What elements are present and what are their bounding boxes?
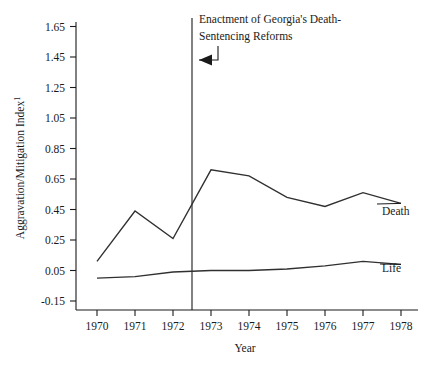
x-axis-ticks [97, 310, 401, 316]
y-axis-title-footnote: 1 [13, 97, 22, 101]
series-line-death [97, 170, 401, 262]
x-tick-label-1974: 1974 [238, 320, 261, 332]
y-axis-title-group: Aggravation/Mitigation Index1 [13, 97, 28, 239]
y-tick-label-025: 0.25 [45, 234, 65, 246]
aggravation-mitigation-index-line-chart: 1.65 1.45 1.25 1.05 0.85 0.65 0.45 0.25 … [0, 0, 430, 373]
y-tick-label-neg015: -0.15 [41, 295, 65, 307]
y-tick-label-085: 0.85 [45, 143, 65, 155]
y-axis-title: Aggravation/Mitigation Index [14, 101, 27, 240]
y-tick-label-065: 0.65 [45, 173, 65, 185]
annotation-line-2: Sentencing Reforms [199, 30, 293, 43]
y-tick-label-165: 1.65 [45, 21, 65, 33]
death-label-leader [377, 203, 401, 204]
x-axis-title: Year [234, 342, 255, 354]
series-line-life [97, 261, 401, 278]
x-tick-label-1978: 1978 [390, 320, 413, 332]
y-tick-label-105: 1.05 [45, 112, 65, 124]
x-tick-label-1976: 1976 [314, 320, 337, 332]
annotation-line-1: Enactment of Georgia's Death- [199, 13, 341, 26]
y-tick-label-005: 0.05 [45, 265, 65, 277]
x-tick-label-1977: 1977 [352, 320, 375, 332]
x-tick-label-1975: 1975 [276, 320, 299, 332]
y-axis-ticks [70, 27, 76, 302]
x-tick-label-1970: 1970 [86, 320, 109, 332]
x-tick-label-1971: 1971 [124, 320, 147, 332]
series-label-life: Life [382, 262, 401, 274]
series-label-death: Death [382, 205, 410, 217]
y-tick-label-125: 1.25 [45, 82, 65, 94]
chart-figure: 1.65 1.45 1.25 1.05 0.85 0.65 0.45 0.25 … [0, 0, 430, 373]
svg-text:Aggravation/Mitigation Index1: Aggravation/Mitigation Index1 [13, 97, 28, 239]
annotation-arrow [199, 46, 218, 66]
x-tick-label-1973: 1973 [200, 320, 223, 332]
x-tick-label-1972: 1972 [162, 320, 185, 332]
y-tick-label-145: 1.45 [45, 51, 65, 63]
y-tick-label-045: 0.45 [45, 204, 65, 216]
